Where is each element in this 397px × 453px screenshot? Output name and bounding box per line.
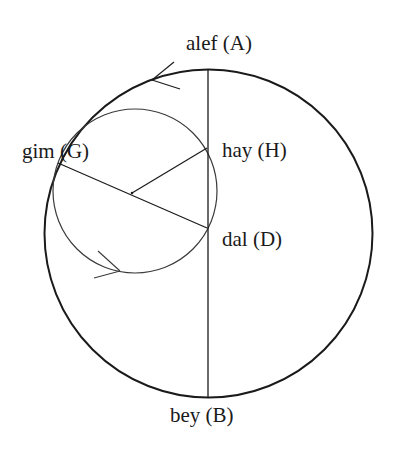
segment-g-d <box>58 163 207 228</box>
diagram-canvas: alef (A) hay (H) gim (G) dal (D) bey (B) <box>0 0 397 453</box>
segment-center-h <box>132 148 207 193</box>
label-bey: bey (B) <box>170 403 234 427</box>
label-alef: alef (A) <box>186 31 252 55</box>
center-point <box>131 192 134 195</box>
label-gim: gim (G) <box>22 139 89 163</box>
label-hay: hay (H) <box>222 138 287 162</box>
label-dal: dal (D) <box>222 227 282 251</box>
